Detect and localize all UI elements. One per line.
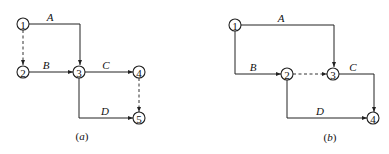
svg-text:2: 2 xyxy=(20,67,26,79)
svg-text:1: 1 xyxy=(20,19,26,31)
svg-text:5: 5 xyxy=(136,113,142,125)
edge-label-D: D xyxy=(315,105,324,117)
edge-b-A: A xyxy=(241,12,334,67)
edge-a-C: C xyxy=(85,59,133,72)
svg-text:4: 4 xyxy=(370,113,376,125)
svg-text:3: 3 xyxy=(330,69,336,81)
node-a-2: 2 xyxy=(17,66,29,79)
edge-b-C: C xyxy=(339,61,374,112)
node-b-1: 1 xyxy=(229,19,241,32)
edge-label-A: A xyxy=(277,12,285,24)
diagram-a: A B C D 1 2 xyxy=(17,11,145,143)
edge-label-B: B xyxy=(43,59,50,71)
network-diagrams: A B C D 1 2 xyxy=(0,0,389,154)
edge-a-B: B xyxy=(29,59,73,72)
node-b-2: 2 xyxy=(281,68,293,81)
diagram-b: A B C D 1 2 3 xyxy=(229,12,379,144)
node-b-3: 3 xyxy=(327,68,339,81)
svg-text:1: 1 xyxy=(232,20,238,32)
edge-b-D: D xyxy=(287,80,367,118)
node-a-1: 1 xyxy=(17,18,29,31)
node-b-4: 4 xyxy=(367,112,379,125)
edge-label-D: D xyxy=(100,105,109,117)
node-a-5: 5 xyxy=(133,112,145,125)
edge-label-C: C xyxy=(102,59,110,71)
caption-b: (b) xyxy=(324,131,337,144)
edge-label-C: C xyxy=(349,61,357,73)
caption-a: (a) xyxy=(76,130,89,143)
svg-text:4: 4 xyxy=(136,67,142,79)
edge-label-A: A xyxy=(46,11,54,23)
node-a-3: 3 xyxy=(73,66,85,79)
edge-a-A: A xyxy=(29,11,80,65)
edge-label-B: B xyxy=(250,61,257,73)
svg-text:2: 2 xyxy=(284,69,290,81)
edge-b-B: B xyxy=(235,31,281,74)
edge-a-D: D xyxy=(79,78,133,118)
node-a-4: 4 xyxy=(133,66,145,79)
svg-text:3: 3 xyxy=(76,67,82,79)
